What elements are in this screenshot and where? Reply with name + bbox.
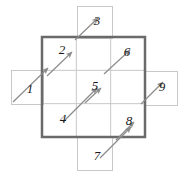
arrow-label-1: 1 xyxy=(27,82,34,95)
arrow-label-8: 8 xyxy=(126,114,133,127)
arrow-4 xyxy=(63,88,97,122)
arrow-label-4: 4 xyxy=(60,112,67,125)
arrow-label-2: 2 xyxy=(59,43,66,56)
arrow-label-5: 5 xyxy=(92,79,99,92)
arrow-label-9: 9 xyxy=(159,80,166,93)
grid-arrows-diagram: 123456789 xyxy=(0,0,187,179)
arrow-label-3: 3 xyxy=(94,14,101,27)
arrow-label-6: 6 xyxy=(124,45,131,58)
arrow-label-7: 7 xyxy=(94,149,101,162)
